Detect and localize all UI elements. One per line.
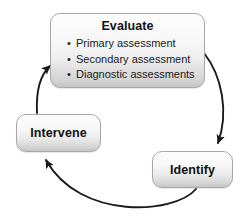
node-intervene-label: Intervene: [30, 126, 86, 140]
list-item-label: Primary assessment: [76, 36, 198, 52]
node-identify[interactable]: Identify: [152, 151, 233, 188]
arrow-intervene-to-evaluate: [37, 66, 50, 113]
bullet-icon: •: [67, 67, 76, 83]
node-identify-label: Identify: [170, 163, 215, 177]
bullet-icon: •: [67, 52, 76, 68]
node-evaluate-list: • Primary assessment • Secondary assessm…: [57, 36, 198, 83]
list-item-label: Diagnostic assessments: [76, 67, 198, 83]
list-item: • Secondary assessment: [57, 52, 198, 68]
node-intervene[interactable]: Intervene: [16, 114, 101, 152]
bullet-icon: •: [67, 36, 76, 52]
list-item: • Diagnostic assessments: [57, 67, 198, 83]
node-evaluate[interactable]: Evaluate • Primary assessment • Secondar…: [50, 13, 205, 88]
node-evaluate-title: Evaluate: [57, 19, 198, 34]
list-item: • Primary assessment: [57, 36, 198, 52]
arrow-evaluate-to-identify: [204, 53, 223, 143]
diagram-canvas: Evaluate • Primary assessment • Secondar…: [0, 0, 246, 224]
list-item-label: Secondary assessment: [76, 52, 198, 68]
